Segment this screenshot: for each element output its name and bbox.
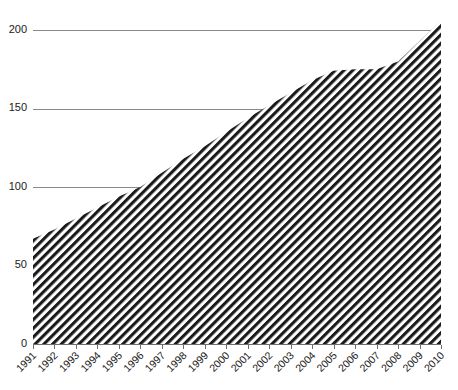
y-tick-label-50: 50 — [15, 258, 27, 270]
y-tick-label-150: 150 — [9, 101, 27, 113]
area-chart: 050100150200 199119921993199419951996199… — [0, 0, 458, 390]
y-tick-label-0: 0 — [21, 337, 27, 349]
y-tick-label-200: 200 — [9, 23, 27, 35]
y-tick-label-100: 100 — [9, 180, 27, 192]
chart-container: 050100150200 199119921993199419951996199… — [0, 0, 458, 390]
